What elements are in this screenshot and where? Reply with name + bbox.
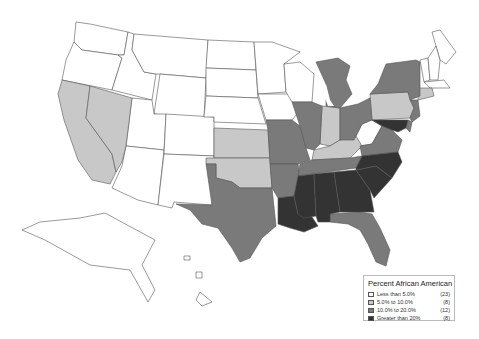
legend-item: Less than 5.0% (23) (368, 290, 450, 298)
legend-item: 5.0% to 10.0% (8) (368, 298, 450, 306)
state-north-dakota (206, 40, 256, 70)
state-south-dakota (206, 68, 258, 98)
state-pennsylvania (370, 92, 414, 120)
legend-label: 5.0% to 10.0% (377, 299, 436, 305)
legend-swatch (368, 308, 374, 313)
map-legend: Percent African American Less than 5.0% … (363, 275, 455, 321)
state-massachusetts (424, 80, 450, 88)
legend-swatch (368, 316, 374, 321)
state-florida (330, 212, 390, 266)
state-new-mexico (158, 154, 214, 208)
legend-swatch (368, 292, 374, 297)
state-wyoming (154, 74, 206, 118)
legend-count: (12) (436, 307, 450, 313)
legend-title: Percent African American (368, 279, 450, 288)
legend-label: 10.0% to 20.0% (377, 307, 436, 313)
legend-swatch (368, 300, 374, 305)
state-alaska (22, 213, 155, 302)
legend-item: Greater than 20% (8) (368, 314, 450, 322)
state-montana (132, 34, 208, 78)
legend-item: 10.0% to 20.0% (12) (368, 306, 450, 314)
legend-count: (8) (436, 299, 450, 305)
legend-count: (23) (436, 291, 450, 297)
legend-label: Less than 5.0% (377, 291, 436, 297)
state-colorado (164, 114, 214, 156)
state-michigan (316, 58, 352, 108)
state-indiana (320, 106, 340, 146)
state-wisconsin (284, 62, 314, 102)
legend-count: (8) (436, 315, 450, 321)
state-kansas (214, 128, 270, 158)
legend-label: Greater than 20% (377, 315, 436, 321)
state-hawaii (184, 256, 212, 306)
state-mississippi (294, 174, 316, 218)
state-connecticut (418, 88, 434, 100)
